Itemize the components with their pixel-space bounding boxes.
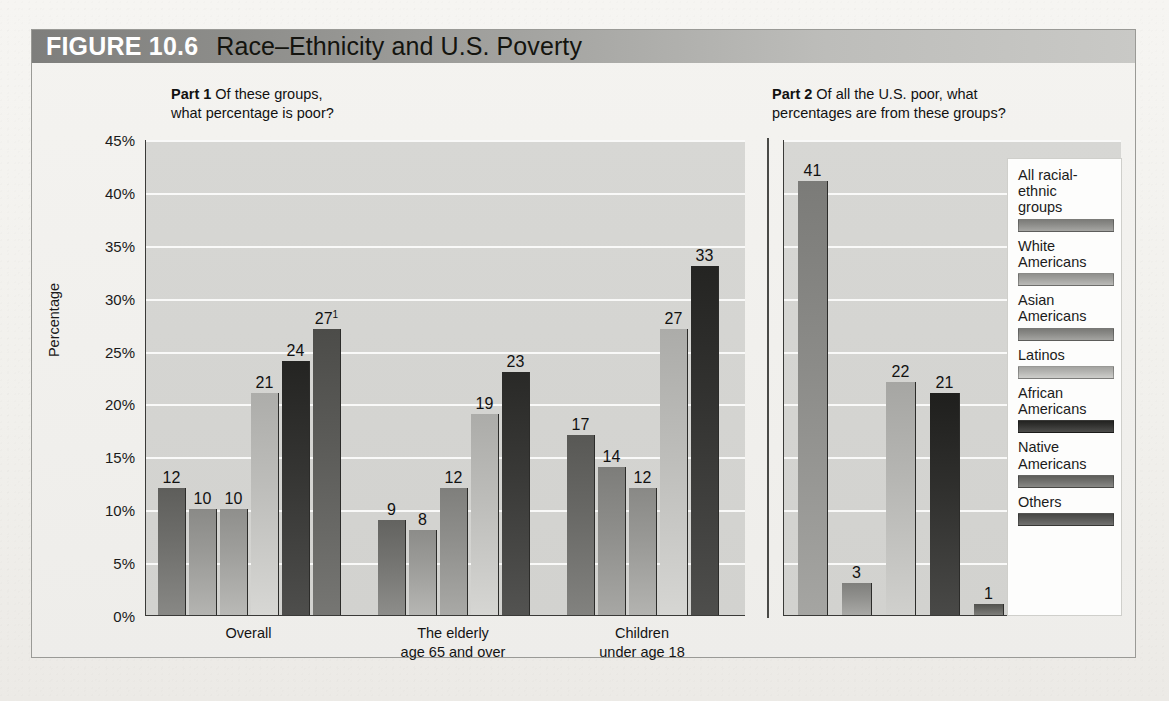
x-axis-group-label-line1: Children xyxy=(599,624,684,643)
legend-item: Native Americans xyxy=(1018,439,1113,487)
bar: 24 xyxy=(282,361,310,615)
legend-item: Others xyxy=(1018,494,1113,526)
legend-swatch xyxy=(1018,366,1114,379)
part2-question-line2: percentages are from these groups? xyxy=(772,105,1006,121)
legend-swatch xyxy=(1018,513,1114,526)
gridline xyxy=(784,140,1121,142)
gridline xyxy=(146,193,745,195)
bar: 12 xyxy=(440,488,468,615)
bar-value-label: 24 xyxy=(287,343,305,359)
bar-value-label: 10 xyxy=(225,491,243,507)
legend-item-label: Latinos xyxy=(1018,347,1113,363)
legend-item-label: Asian Americans xyxy=(1018,292,1113,324)
y-axis-tick: 5% xyxy=(113,555,135,572)
y-axis-tick: 15% xyxy=(105,449,135,466)
part1-plot-area: 1210102124271981219231714122733 xyxy=(145,140,745,616)
gridline xyxy=(146,457,745,459)
part1-label: Part 1 xyxy=(171,86,211,102)
y-axis: 0%5%10%15%20%25%30%35%40%45% xyxy=(87,140,139,616)
y-axis-tick: 20% xyxy=(105,396,135,413)
bar: 10 xyxy=(220,509,248,615)
x-axis-group-label-line2: age 65 and over xyxy=(401,643,506,662)
gridline xyxy=(146,404,745,406)
bar: 33 xyxy=(691,266,719,615)
y-axis-title: Percentage xyxy=(46,283,62,357)
part2-label: Part 2 xyxy=(772,86,812,102)
legend-item-label: African Americans xyxy=(1018,385,1113,417)
bar: 1 xyxy=(974,604,1004,615)
legend-swatch xyxy=(1018,219,1114,232)
x-axis-group-label: The elderlyage 65 and over xyxy=(401,624,506,662)
bar-value-label: 19 xyxy=(476,396,494,412)
legend-item-label: Native Americans xyxy=(1018,439,1113,471)
x-axis-group-label-line1: Overall xyxy=(226,624,272,643)
bar-value-label: 12 xyxy=(634,470,652,486)
bar-value-label: 17 xyxy=(572,417,590,433)
legend-item-label: White Americans xyxy=(1018,238,1113,270)
y-axis-tick: 10% xyxy=(105,502,135,519)
gridline xyxy=(146,299,745,301)
figure-container: FIGURE 10.6 Race–Ethnicity and U.S. Pove… xyxy=(31,29,1136,658)
bar-value-label: 23 xyxy=(507,354,525,370)
bar: 10 xyxy=(189,509,217,615)
bar: 3 xyxy=(842,583,872,615)
legend-item: Asian Americans xyxy=(1018,292,1113,340)
bar: 23 xyxy=(502,372,530,615)
legend-item: White Americans xyxy=(1018,238,1113,286)
legend-item: All racial- ethnic groups xyxy=(1018,167,1113,232)
bar: 17 xyxy=(567,435,595,615)
bar: 21 xyxy=(251,393,279,615)
bar-value-label: 9 xyxy=(387,502,396,518)
bar-value-label: 10 xyxy=(194,491,212,507)
part1-question-line1: Of these groups, xyxy=(215,86,322,102)
gridline xyxy=(146,140,745,142)
bar-value-label: 271 xyxy=(315,310,338,327)
part2-heading: Part 2 Of all the U.S. poor, what percen… xyxy=(772,85,1006,122)
bar-value-label: 33 xyxy=(696,248,714,264)
y-axis-tick: 0% xyxy=(113,608,135,625)
y-axis-tick: 40% xyxy=(105,184,135,201)
gridline xyxy=(146,246,745,248)
bar-value-label: 27 xyxy=(665,311,683,327)
bar-value-label: 3 xyxy=(852,565,861,581)
bar: 271 xyxy=(313,329,341,615)
y-axis-tick: 45% xyxy=(105,132,135,149)
part1-heading: Part 1 Of these groups, what percentage … xyxy=(171,85,334,122)
legend-item: African Americans xyxy=(1018,385,1113,433)
part2-question-line1: Of all the U.S. poor, what xyxy=(816,86,977,102)
y-axis-tick: 30% xyxy=(105,290,135,307)
bar: 9 xyxy=(378,520,406,615)
bar-value-label: 12 xyxy=(445,470,463,486)
bar: 27 xyxy=(660,329,688,615)
figure-title-bar: FIGURE 10.6 Race–Ethnicity and U.S. Pove… xyxy=(32,30,1135,63)
bar: 41 xyxy=(798,181,828,615)
bar: 14 xyxy=(598,467,626,615)
bar: 19 xyxy=(471,414,499,615)
figure-number: FIGURE 10.6 xyxy=(46,32,198,61)
bar-value-label: 12 xyxy=(163,470,181,486)
bar: 12 xyxy=(629,488,657,615)
legend-item-label: Others xyxy=(1018,494,1113,510)
legend-swatch xyxy=(1018,420,1114,433)
legend-swatch xyxy=(1018,475,1114,488)
bar-value-label: 14 xyxy=(603,449,621,465)
gridline xyxy=(146,352,745,354)
x-axis-group-label: Childrenunder age 18 xyxy=(599,624,684,662)
bar-value-label: 22 xyxy=(892,364,910,380)
legend-item-label: All racial- ethnic groups xyxy=(1018,167,1113,216)
bar-value-label: 1 xyxy=(984,586,993,602)
legend-swatch xyxy=(1018,328,1114,341)
bar-value-label: 21 xyxy=(936,375,954,391)
bar: 22 xyxy=(886,382,916,615)
panel-divider xyxy=(767,138,769,618)
y-axis-tick: 25% xyxy=(105,343,135,360)
bar: 12 xyxy=(158,488,186,615)
part1-question-line2: what percentage is poor? xyxy=(171,105,334,121)
bar-value-label: 41 xyxy=(804,163,822,179)
page-title: Race–Ethnicity and U.S. Poverty xyxy=(216,32,582,61)
x-axis-group-label-line2: under age 18 xyxy=(599,643,684,662)
x-axis-group-label-line1: The elderly xyxy=(401,624,506,643)
bar: 8 xyxy=(409,530,437,615)
bar-value-label: 8 xyxy=(418,512,427,528)
legend-item: Latinos xyxy=(1018,347,1113,379)
